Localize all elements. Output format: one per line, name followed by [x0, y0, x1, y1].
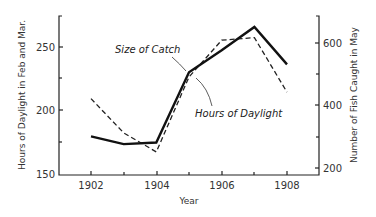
chart: 250 200 150 600 400 200 1902 1904 1906 1…	[0, 0, 376, 217]
y-left-tick-label: 150	[36, 169, 55, 180]
annotation-size-of-catch: Size of Catch	[115, 44, 180, 55]
x-tick-label: 1906	[209, 180, 234, 191]
leader-line-daylight	[196, 78, 212, 106]
y-left-axis-title: Hours of Daylight in Feb and Mar.	[17, 20, 27, 170]
y-right-tick-label: 200	[323, 163, 342, 174]
x-tick-label: 1902	[78, 180, 103, 191]
annotation-hours-of-daylight: Hours of Daylight	[195, 108, 283, 119]
y-left-tick-label: 250	[36, 42, 55, 53]
x-axis-title: Year	[178, 196, 198, 206]
y-right-tick-label: 400	[323, 100, 342, 111]
axes	[59, 16, 319, 175]
leader-line-catch	[172, 57, 186, 71]
axis-frame	[59, 16, 319, 175]
y-left-tick-label: 200	[36, 105, 55, 116]
y-right-tick-label: 600	[323, 38, 342, 49]
y-right-axis-title: Number of Fish Caught in May	[349, 26, 359, 162]
x-tick-label: 1908	[274, 180, 299, 191]
x-tick-label: 1904	[144, 180, 169, 191]
